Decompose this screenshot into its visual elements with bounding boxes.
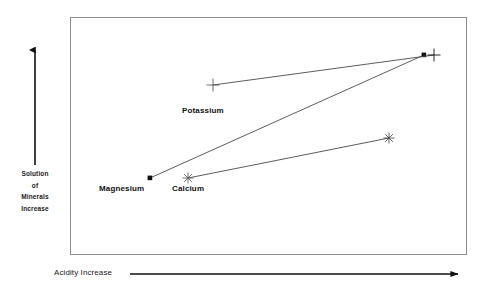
y-axis-label-line-3: Minerals: [0, 191, 70, 203]
plot-frame: [70, 17, 467, 255]
data-label-potassium: Potassium: [182, 106, 224, 115]
y-axis-label-line-4: Increase: [0, 203, 70, 215]
x-axis-label: Acidity Increase: [54, 268, 112, 277]
y-axis-label-line-1: Solution: [0, 168, 70, 180]
y-axis-label: Solution of Minerals Increase: [0, 168, 70, 214]
data-label-magnesium: Magnesium: [99, 184, 144, 193]
chart-figure: Solution of Minerals Increase Acidity In…: [0, 0, 489, 297]
data-label-calcium: Calcium: [172, 184, 204, 193]
y-axis-label-line-2: of: [0, 180, 70, 192]
